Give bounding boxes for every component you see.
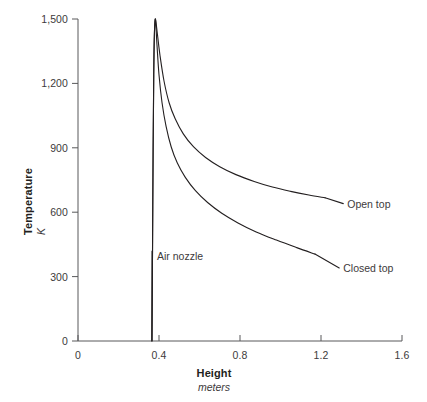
series-line-closed-top	[152, 19, 315, 341]
y-axis-title: Temperature K	[22, 135, 38, 255]
annotation-air-nozzle-label: Air nozzle	[157, 250, 203, 262]
chart-container: 03006009001,2001,500 00.40.81.21.6 Open …	[0, 0, 427, 402]
x-axis-tick-label: 0	[75, 349, 81, 361]
y-axis-tick-label: 1,500	[20, 13, 68, 25]
y-axis-title-text: Temperature	[22, 168, 34, 235]
x-axis-tick-label: 1.6	[395, 349, 410, 361]
series-leader-line	[325, 198, 343, 204]
series-leader-line	[315, 254, 339, 268]
series-label-closed-top: Closed top	[343, 262, 393, 274]
y-axis-title-units: K	[35, 228, 47, 235]
series-label-open-top: Open top	[347, 198, 390, 210]
y-axis-tick-label: 0	[20, 335, 68, 347]
x-axis-tick-label: 0.4	[152, 349, 167, 361]
x-axis-title-units: meters	[198, 381, 230, 393]
chart-series	[152, 19, 325, 341]
series-leader-lines	[315, 198, 343, 268]
x-axis-ticks	[78, 335, 402, 341]
series-line-open-top	[152, 19, 325, 341]
y-axis-tick-label: 300	[20, 271, 68, 283]
y-axis-tick-label: 1,200	[20, 77, 68, 89]
y-axis-ticks	[72, 19, 78, 341]
x-axis-tick-label: 1.2	[314, 349, 329, 361]
x-axis-title-text: Height	[197, 367, 232, 379]
axes	[78, 19, 402, 341]
x-axis-tick-label: 0.8	[233, 349, 248, 361]
